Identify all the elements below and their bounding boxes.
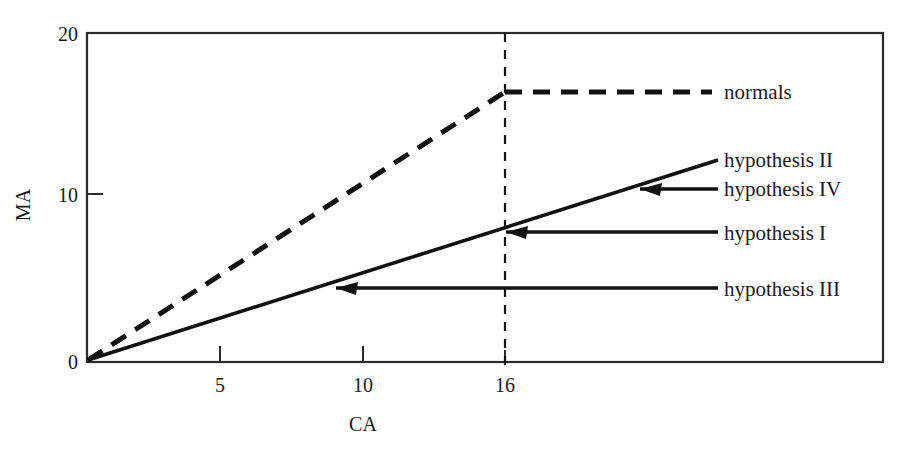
series-label-hypothesis-2: hypothesis II: [724, 148, 833, 172]
series-label-hypothesis-1: hypothesis I: [724, 221, 826, 245]
series-hypothesis-2: [88, 160, 718, 360]
series-label-hypothesis-3: hypothesis III: [724, 277, 840, 301]
chart-figure: 20 10 0 5 10 16 MA CA normals hypothesis…: [0, 0, 897, 454]
arrow-head-hypothesis-3: [336, 282, 358, 295]
x-tick-label-16: 16: [495, 374, 515, 396]
x-axis-title: CA: [349, 413, 377, 435]
series-normals-rise: [88, 92, 505, 360]
series-label-hypothesis-4: hypothesis IV: [724, 177, 841, 201]
chart-canvas: 20 10 0 5 10 16 MA CA normals hypothesis…: [0, 0, 897, 454]
x-tick-label-10: 10: [353, 374, 373, 396]
y-axis-title: MA: [12, 188, 34, 221]
series-label-normals: normals: [724, 80, 792, 104]
x-tick-label-5: 5: [215, 374, 225, 396]
y-tick-label-0: 0: [68, 351, 78, 373]
y-tick-label-10: 10: [58, 184, 78, 206]
y-tick-label-20: 20: [58, 23, 78, 45]
